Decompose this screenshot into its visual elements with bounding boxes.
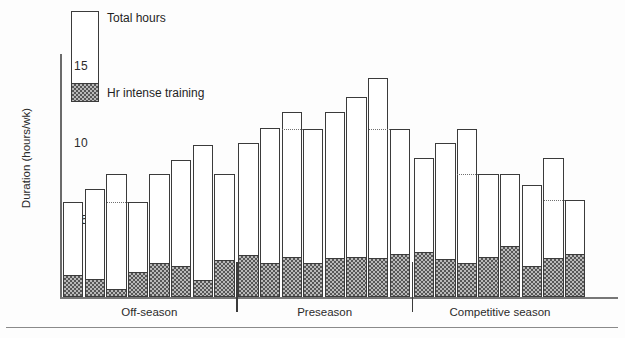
season-label-competitive-season: Competitive season: [410, 306, 590, 318]
bar-segment-intense-training: [282, 257, 302, 297]
bar-column: [63, 202, 83, 297]
bar-column: [128, 202, 148, 297]
bar-segment-intense-training: [346, 257, 366, 297]
bar-column: [346, 97, 366, 297]
bar-column: [214, 174, 234, 297]
y-axis-title: Duration (hours/wk): [20, 88, 32, 228]
bar-column: [368, 78, 388, 297]
bar-segment-intense-training: [303, 263, 323, 297]
legend-label-total-hours: Total hours: [107, 11, 166, 25]
bar-column: [522, 185, 542, 297]
bar-segment-intense-training: [63, 275, 83, 297]
bar-column: [85, 189, 105, 297]
bar-segment-intense-training: [457, 263, 477, 297]
bar-column: [543, 158, 563, 297]
bar-column: [500, 174, 520, 297]
bar-segment-intense-training: [478, 257, 498, 297]
dashed-reference-line: [369, 129, 390, 130]
bar-column: [149, 174, 169, 297]
bar-segment-intense-training: [325, 258, 345, 297]
bar-column: [106, 174, 126, 297]
bar-segment-intense-training: [368, 258, 388, 297]
bar-segment-intense-training: [435, 259, 455, 298]
bar-segment-intense-training: [149, 263, 169, 297]
figure-bottom-rule: [6, 327, 618, 328]
bar-column: [414, 158, 434, 297]
dashed-reference-line: [282, 129, 303, 130]
dashed-reference-line: [544, 200, 565, 201]
dashed-reference-line: [457, 174, 478, 175]
bar-segment-intense-training: [171, 266, 191, 297]
bar-column: [435, 143, 455, 297]
bar-segment-intense-training: [128, 272, 148, 297]
bar-column: [478, 174, 498, 297]
bar-segment-intense-training: [522, 266, 542, 297]
bar-column: [457, 129, 477, 297]
bar-column: [260, 128, 280, 297]
bar-segment-intense-training: [214, 260, 234, 297]
bar-column: [171, 160, 191, 297]
bar-segment-intense-training: [106, 289, 126, 297]
bar-segment-intense-training: [414, 252, 434, 297]
bar-segment-intense-training: [238, 255, 258, 297]
season-label-preseason: Preseason: [235, 306, 415, 318]
bar-segment-intense-training: [543, 258, 563, 297]
bar-segment-intense-training: [193, 280, 213, 297]
bar-segment-intense-training: [500, 246, 520, 297]
bar-segment-total-hours: [106, 174, 126, 297]
figure-container: Total hours Hr intense training Duration…: [0, 0, 625, 338]
bar-column: [390, 129, 410, 297]
bar-column: [303, 129, 323, 297]
bar-segment-intense-training: [85, 279, 105, 297]
bar-column: [565, 200, 585, 297]
bar-segment-intense-training: [565, 254, 585, 297]
bar-column: [325, 112, 345, 297]
bar-column: [282, 112, 302, 297]
dashed-reference-line: [107, 202, 128, 203]
bar-segment-intense-training: [390, 254, 410, 297]
bar-column: [238, 143, 258, 297]
x-axis-baseline: [60, 297, 618, 299]
bar-segment-total-hours: [193, 145, 213, 297]
bar-segment-intense-training: [260, 263, 280, 297]
bar-column: [193, 145, 213, 297]
season-label-off-season: Off-season: [59, 306, 239, 318]
